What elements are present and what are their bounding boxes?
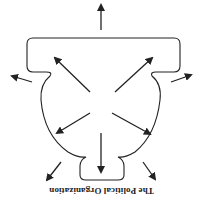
arrow-down-right-icon — [112, 113, 150, 134]
diagram-title: The Political Organization — [0, 186, 203, 196]
arrow-left-icon — [12, 76, 32, 82]
arrow-down-right-outer-icon — [143, 162, 155, 179]
arrows-group — [12, 5, 191, 180]
organization-outline — [27, 38, 180, 180]
arrow-right-icon — [171, 75, 191, 82]
arrow-up-left-icon — [55, 58, 90, 92]
arrow-down-left-outer-icon — [47, 162, 61, 180]
political-organization-diagram — [0, 0, 203, 205]
arrow-up-right-icon — [115, 58, 152, 92]
arrow-down-left-icon — [57, 113, 90, 133]
